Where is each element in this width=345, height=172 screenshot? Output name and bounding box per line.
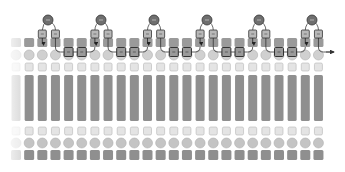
lower-small-square-row-cell xyxy=(249,127,257,135)
upper-small-square-row-cell xyxy=(104,63,112,71)
bottom-square-row-cell xyxy=(77,150,87,160)
bottom-square-row-cell xyxy=(24,150,34,160)
bottom-square-row-cell xyxy=(64,150,74,160)
upper-small-square-row-cell xyxy=(288,63,296,71)
lower-circle-row-cell xyxy=(208,138,218,148)
upper-small-square-row-cell xyxy=(222,63,230,71)
left-fade-overlay xyxy=(0,30,24,165)
lower-circle-row-cell xyxy=(221,138,231,148)
tall-bar-row-cell xyxy=(130,75,139,121)
grid-diagram xyxy=(0,0,345,172)
tall-bar-row-cell xyxy=(301,75,310,121)
bottom-square-row-cell xyxy=(221,150,231,160)
top-square-row-cell xyxy=(287,38,297,47)
lower-small-square-row-cell xyxy=(65,127,73,135)
upper-small-square-row-cell xyxy=(301,63,309,71)
lower-small-square-row-cell xyxy=(196,127,204,135)
lower-small-square-row-cell xyxy=(275,127,283,135)
lower-circle-row-cell xyxy=(313,138,323,148)
column xyxy=(90,38,100,160)
column xyxy=(195,38,205,160)
upper-small-square-row-cell xyxy=(236,63,244,71)
bottom-square-row-cell xyxy=(274,150,284,160)
bottom-square-row-cell xyxy=(116,150,126,160)
bottom-square-row-cell xyxy=(156,150,166,160)
tall-bar-row-cell xyxy=(235,75,244,121)
tall-bar-row-cell xyxy=(143,75,152,121)
column xyxy=(261,38,271,160)
top-square-row-cell xyxy=(169,38,179,47)
upper-small-square-row-cell xyxy=(51,63,59,71)
lower-small-square-row-cell xyxy=(104,127,112,135)
tall-bar-row-cell xyxy=(77,75,86,121)
lower-circle-row-cell xyxy=(248,138,258,148)
column xyxy=(248,38,258,160)
tall-bar-row-cell xyxy=(261,75,270,121)
lower-small-square-row-cell xyxy=(25,127,33,135)
upper-small-square-row-cell xyxy=(65,63,73,71)
lower-small-square-row-cell xyxy=(38,127,46,135)
column xyxy=(103,38,113,160)
bottom-square-row-cell xyxy=(235,150,245,160)
tall-bar-row-cell xyxy=(104,75,113,121)
lower-small-square-row-cell xyxy=(222,127,230,135)
column xyxy=(313,38,323,160)
top-square-row-cell xyxy=(24,38,34,47)
lower-circle-row-cell xyxy=(116,138,126,148)
upper-small-square-row-cell xyxy=(249,63,257,71)
upper-small-square-row-cell xyxy=(130,63,138,71)
bottom-square-row-cell xyxy=(129,150,139,160)
bottom-square-row-cell xyxy=(90,150,100,160)
lower-circle-row-cell xyxy=(64,138,74,148)
lower-circle-row-cell xyxy=(129,138,139,148)
bottom-square-row-cell xyxy=(169,150,179,160)
upper-small-square-row-cell xyxy=(262,63,270,71)
lower-small-square-row-cell xyxy=(130,127,138,135)
bottom-square-row-cell xyxy=(143,150,153,160)
tall-bar-row-cell xyxy=(288,75,297,121)
tall-bar-row-cell xyxy=(209,75,218,121)
lower-small-square-row-cell xyxy=(236,127,244,135)
lower-small-square-row-cell xyxy=(91,127,99,135)
upper-small-square-row-cell xyxy=(144,63,152,71)
lower-small-square-row-cell xyxy=(170,127,178,135)
top-square-row-cell xyxy=(274,38,284,47)
lower-circle-row-cell xyxy=(195,138,205,148)
lower-small-square-row-cell xyxy=(117,127,125,135)
lower-circle-row-cell xyxy=(24,138,34,148)
upper-small-square-row-cell xyxy=(314,63,322,71)
lower-small-square-row-cell xyxy=(209,127,217,135)
top-square-row-cell xyxy=(64,38,74,47)
bottom-square-row-cell xyxy=(37,150,47,160)
bottom-square-row-cell xyxy=(50,150,60,160)
lower-circle-row-cell xyxy=(103,138,113,148)
bottom-square-row-cell xyxy=(300,150,310,160)
lower-small-square-row-cell xyxy=(314,127,322,135)
lower-small-square-row-cell xyxy=(157,127,165,135)
column xyxy=(156,38,166,160)
tall-bar-row-cell xyxy=(38,75,47,121)
lower-small-square-row-cell xyxy=(144,127,152,135)
top-square-row-cell xyxy=(116,38,126,47)
column xyxy=(24,38,34,160)
upper-small-square-row-cell xyxy=(78,63,86,71)
column xyxy=(300,38,310,160)
column xyxy=(50,38,60,160)
lower-circle-row-cell xyxy=(143,138,153,148)
tall-bar-row-cell xyxy=(64,75,73,121)
lower-circle-row-cell xyxy=(235,138,245,148)
tall-bar-row-cell xyxy=(90,75,99,121)
column xyxy=(143,38,153,160)
column xyxy=(37,38,47,160)
lower-circle-row-cell xyxy=(156,138,166,148)
lower-circle-row-cell xyxy=(274,138,284,148)
column xyxy=(208,38,218,160)
lower-small-square-row-cell xyxy=(78,127,86,135)
bottom-square-row-cell xyxy=(103,150,113,160)
lower-circle-row-cell xyxy=(50,138,60,148)
upper-small-square-row-cell xyxy=(209,63,217,71)
top-square-row-cell xyxy=(235,38,245,47)
tall-bar-row-cell xyxy=(117,75,126,121)
upper-circle-row-cell xyxy=(24,50,34,60)
upper-small-square-row-cell xyxy=(196,63,204,71)
